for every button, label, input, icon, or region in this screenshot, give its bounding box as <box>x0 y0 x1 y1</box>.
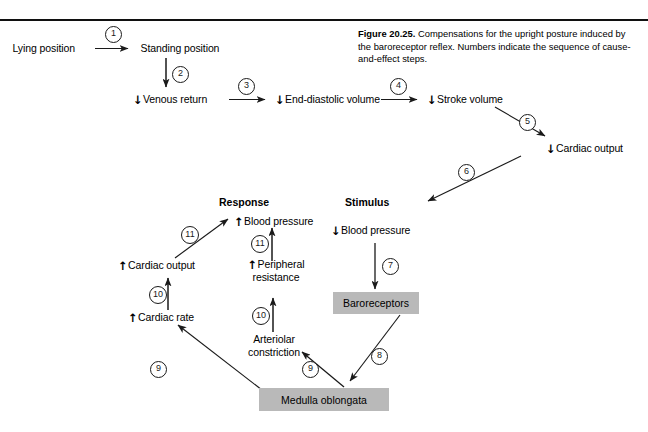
trend-arrow-icon: ↓ <box>427 95 437 105</box>
step-badge-9-cardiac-rate: 9 <box>150 361 167 378</box>
node-label: Lying position <box>13 42 75 54</box>
node-end-diastolic-volume: ↓End-diastolic volume <box>275 93 380 106</box>
step-badge-5: 5 <box>519 114 536 131</box>
node-peripheral-resistance: ↑Peripheral resistance <box>236 258 316 283</box>
step-badge-11-from-cardiac-output: 11 <box>181 226 199 244</box>
step-badge-2: 2 <box>172 66 189 83</box>
node-label: Medulla oblongata <box>281 394 367 406</box>
step-badge-11-from-peripheral-resistance: 11 <box>251 235 269 253</box>
section-header-stimulus: Stimulus <box>345 196 389 208</box>
node-label: End-diastolic volume <box>285 93 380 105</box>
step-badge-7: 7 <box>382 258 399 275</box>
step-badge-3: 3 <box>238 78 255 95</box>
step-badge-1: 1 <box>105 26 122 43</box>
node-standing-position: Standing position <box>140 42 219 55</box>
node-lying-position: Lying position <box>12 42 75 55</box>
node-label: Cardiac output <box>556 142 623 154</box>
figure-canvas: Figure 20.25. Compensations for the upri… <box>0 0 648 432</box>
node-label: Blood pressure <box>244 215 313 227</box>
flow-arrows-layer <box>0 0 648 432</box>
section-header-response: Response <box>219 196 269 208</box>
step-badge-10-peripheral-resistance: 10 <box>252 307 270 325</box>
node-baroreceptors: Baroreceptors <box>333 292 419 314</box>
node-label: Arteriolar constriction <box>248 333 300 358</box>
node-venous-return: ↓Venous return <box>133 93 207 106</box>
node-blood-pressure-decrease: ↓Blood pressure <box>331 224 410 237</box>
step-badge-9-arteriolar-constriction: 9 <box>302 361 319 378</box>
node-stroke-volume: ↓Stroke volume <box>427 93 503 106</box>
step-badge-4: 4 <box>390 78 407 95</box>
trend-arrow-icon: ↑ <box>118 261 128 271</box>
step-badge-6: 6 <box>458 164 475 181</box>
trend-arrow-icon: ↓ <box>275 95 285 105</box>
node-label: Blood pressure <box>341 224 410 236</box>
node-blood-pressure-increase: ↑Blood pressure <box>234 215 313 228</box>
arrow-step-6 <box>428 156 521 201</box>
step-badge-10-cardiac-output: 10 <box>149 286 167 304</box>
node-label: Cardiac rate <box>138 311 194 323</box>
step-badge-8: 8 <box>371 348 388 365</box>
trend-arrow-icon: ↓ <box>546 144 556 154</box>
node-cardiac-output-decrease: ↓Cardiac output <box>546 142 623 155</box>
trend-arrow-icon: ↑ <box>128 313 138 323</box>
trend-arrow-icon: ↓ <box>331 226 341 236</box>
trend-arrow-icon: ↓ <box>133 95 143 105</box>
node-label: Baroreceptors <box>343 297 409 309</box>
node-label: Standing position <box>141 42 220 54</box>
node-cardiac-output-increase: ↑Cardiac output <box>118 259 195 272</box>
node-label: Peripheral resistance <box>253 258 305 283</box>
node-label: Stroke volume <box>437 93 503 105</box>
node-label: Cardiac output <box>128 259 195 271</box>
node-cardiac-rate-increase: ↑Cardiac rate <box>128 311 194 324</box>
trend-arrow-icon: ↑ <box>234 217 244 227</box>
node-arteriolar-constriction: Arteriolar constriction <box>237 333 311 358</box>
trend-arrow-icon: ↑ <box>248 260 258 270</box>
node-label: Venous return <box>143 93 207 105</box>
node-medulla-oblongata: Medulla oblongata <box>259 388 389 411</box>
